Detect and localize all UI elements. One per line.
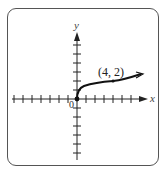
point-label: (4, 2) bbox=[98, 65, 124, 79]
point-4-2 bbox=[111, 79, 114, 82]
x-axis-label: x bbox=[149, 92, 155, 104]
coordinate-plane: y x 0 (4, 2) bbox=[0, 0, 166, 173]
y-axis-label: y bbox=[73, 19, 79, 31]
y-axis-arrow-icon bbox=[74, 32, 80, 41]
x-axis-arrow-icon bbox=[139, 96, 148, 102]
origin-point bbox=[75, 97, 80, 102]
origin-label: 0 bbox=[69, 99, 74, 110]
